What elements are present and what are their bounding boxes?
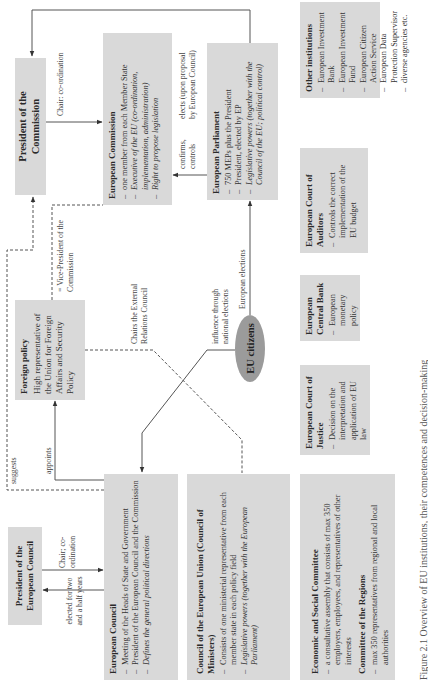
council-of-eu-box: Council of the European Union (Council o…	[187, 474, 290, 680]
label-chair-coordination-commission: Chair: co-ordination	[56, 53, 66, 116]
label-appoints: appoints	[44, 448, 54, 474]
court-of-auditors-title: European Court of Auditors	[304, 154, 326, 247]
label-chair-coordination-council: Chair; co-ordination	[58, 524, 77, 568]
figure-caption: Figure 2.1 Overview of EU institutions, …	[412, 0, 428, 680]
figure-caption-text: Figure 2.1 Overview of EU institutions, …	[418, 360, 428, 680]
council-of-eu-title: Council of the European Union (Council o…	[195, 480, 217, 674]
label-influence-national-elections: influence through national elections	[211, 268, 230, 344]
other-institutions-item: European Investment Fund	[338, 8, 359, 92]
label-suggests: suggests	[9, 458, 19, 484]
court-of-auditors-box: European Court of Auditors Controls the …	[300, 148, 368, 253]
parliament-item: 750 MEPs plus the President	[224, 49, 234, 194]
committee-of-regions-title: Committee of the Regions	[357, 480, 368, 674]
label-elects: elects (upon proposal by European Counci…	[178, 49, 197, 119]
european-parliament-box: European Parliament 750 MEPs plus the Pr…	[207, 43, 278, 200]
european-council-item: Meeting of the Heads of State and Govern…	[121, 480, 131, 674]
eu-citizens-node: EU citizens	[235, 315, 265, 382]
other-institutions-item: European Investment Bank	[317, 8, 338, 92]
other-institutions-item: European Data Protection Supervisor	[379, 8, 400, 92]
esc-item: a consultative assembly that consists of…	[323, 480, 354, 674]
court-of-justice-box: European Court of Justice Decision on th…	[300, 365, 370, 455]
label-elected-term: elected for two and a half years	[65, 573, 84, 629]
label-chairs-external-relations: Chairs the External Relations Council	[130, 266, 149, 344]
president-of-commission-title: President of the Commission	[17, 64, 42, 189]
commission-item: Right to propose legislation	[151, 39, 161, 199]
president-of-european-council-box: President of the European Council	[8, 527, 42, 625]
president-of-european-council-title: President of the European Council	[14, 533, 36, 619]
council-of-eu-item: Consists of one ministerial representati…	[219, 480, 240, 674]
council-of-eu-item: Legislative powers (together with the Eu…	[240, 480, 261, 674]
european-commission-box: European Commission one member from each…	[103, 33, 172, 205]
other-institutions-item: diverse agencies etc.	[400, 8, 410, 92]
central-bank-item: European monetary policy	[328, 281, 359, 335]
economic-social-committee-box: Economic and Social Committee a consulta…	[300, 474, 395, 680]
commission-item: one member from each Member State	[120, 39, 130, 199]
european-council-item: Defines the general political directions	[142, 480, 152, 674]
other-institutions-item: European Citizen Action Service	[359, 8, 380, 92]
commission-item: Executive of the EU (co-ordination, impl…	[130, 39, 151, 199]
foreign-policy-text: High representative of the Union for For…	[32, 306, 76, 394]
court-of-justice-item: Decision on the interpretation and appli…	[328, 371, 370, 449]
label-european-elections: European elections	[238, 249, 248, 309]
president-of-commission-box: President of the Commission	[15, 58, 46, 195]
parliament-item: Legislative powers (together with the Co…	[245, 49, 266, 194]
foreign-policy-title: Foreign policy	[19, 306, 30, 394]
european-council-box: European Council Meeting of the Heads of…	[104, 474, 178, 680]
court-of-auditors-item: Controls the correct implementation of t…	[328, 154, 359, 247]
european-council-title: European Council	[108, 480, 119, 674]
other-institutions-title: Other institutions	[304, 8, 315, 92]
court-of-justice-title: European Court of Justice	[304, 371, 326, 449]
european-parliament-title: European Parliament	[211, 49, 222, 194]
committee-of-regions-item: max 350 representatives from regional an…	[370, 480, 391, 674]
central-bank-title: European Central Bank	[304, 281, 326, 335]
parliament-item: President, elected by EP	[234, 49, 244, 194]
central-bank-box: European Central Bank European monetary …	[300, 275, 360, 341]
other-institutions-box: Other institutions European Investment B…	[300, 2, 380, 98]
label-vice-president: = Vice-President of the Commission	[56, 212, 75, 292]
eu-institutions-diagram: President of the Commission European Com…	[0, 0, 428, 684]
label-confirms-controls: confirms, controls	[178, 129, 197, 169]
esc-title: Economic and Social Committee	[310, 480, 321, 674]
foreign-policy-box: Foreign policy High representative of th…	[15, 300, 85, 400]
european-council-item: President of the European Council and th…	[131, 480, 141, 674]
european-commission-title: European Commission	[107, 39, 118, 199]
